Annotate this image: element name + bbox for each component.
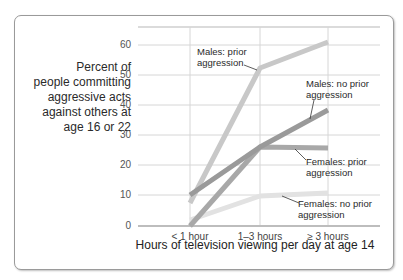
annotation-leader [295, 149, 306, 160]
y-tick: 50 [120, 69, 132, 80]
y-tick: 10 [120, 189, 132, 200]
annotation-females-prior: Females: prior aggression [295, 149, 367, 178]
annotation-males-prior: Males: prior aggression [197, 46, 257, 70]
y-tick-labels: 60 50 40 30 20 10 0 [120, 39, 132, 231]
annotation-text: Females: no prior [298, 198, 372, 209]
annotation-females-no-prior: Females: no prior aggression [282, 196, 372, 220]
y-tick: 30 [120, 129, 132, 140]
annotation-text: aggression [298, 209, 344, 220]
y-tick: 0 [125, 220, 131, 231]
annotation-text: Males: no prior [306, 78, 369, 89]
annotation-text: Females: prior [306, 156, 367, 167]
y-tick: 60 [120, 39, 132, 50]
y-tick: 40 [120, 99, 132, 110]
x-axis-label: Hours of television viewing per day at a… [130, 238, 380, 252]
annotation-text: Males: prior [197, 46, 247, 57]
series-males-no-prior-aggression [190, 110, 328, 195]
annotation-text: aggression [306, 167, 352, 178]
annotation-leader [244, 65, 257, 70]
annotation-males-no-prior: Males: no prior aggression [306, 78, 369, 119]
annotation-text: aggression [197, 57, 243, 68]
annotation-text: aggression [306, 89, 352, 100]
y-tick: 20 [120, 159, 132, 170]
